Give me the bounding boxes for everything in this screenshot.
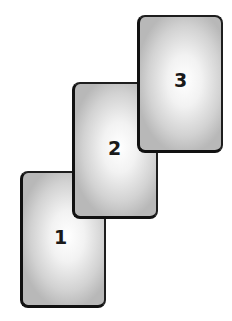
card-number: 3 [174,71,187,90]
card-number: 2 [108,139,121,158]
card-3: 3 [137,15,223,153]
card-number: 1 [54,228,67,247]
